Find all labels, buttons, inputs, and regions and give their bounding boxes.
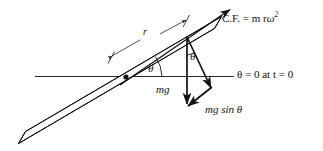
triangle-angle-label: θ: [190, 51, 195, 62]
initial-condition-label: θ = 0 at t = 0: [237, 69, 293, 80]
physics-diagram-canvas: C.F. = m rω2 θ = 0 at t = 0 mg mg sin θ …: [0, 0, 323, 151]
omega-exponent: 2: [275, 10, 279, 19]
rod-angle-label: θ: [148, 63, 153, 74]
radius-dimension-line: [108, 15, 190, 64]
pivot-point: [123, 74, 128, 79]
centrifugal-force-arrow: [120, 10, 230, 86]
radius-label: r: [143, 27, 147, 37]
centrifugal-force-label: C.F. = m rω2: [222, 11, 278, 24]
omega-symbol: ω: [267, 12, 275, 24]
weight-component-label: mg sin θ: [205, 104, 242, 115]
weight-label: mg: [156, 84, 169, 95]
resultant-vector-arrow: [187, 37, 211, 88]
